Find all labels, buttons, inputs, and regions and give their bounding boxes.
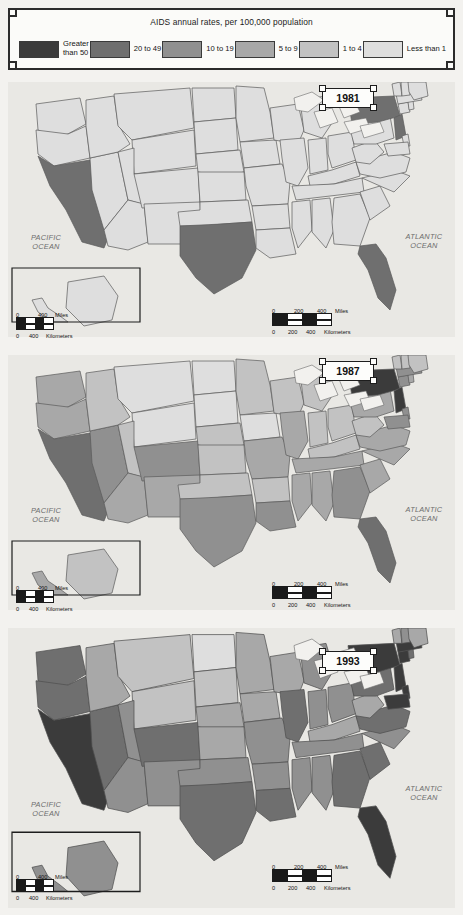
scale-tick-label: 200 [288,602,297,608]
scale-bar-small-1993: 0 400 Miles 0 400 Kilometers [16,872,88,901]
choropleth-svg-1987 [8,355,455,610]
scale-bar-large-1981: 0 200 400 Miles 0 200 400 Kilometers [272,306,382,335]
scale-tick-label: 400 [29,895,38,901]
pacific-ocean-label-1981: PACIFIC OCEAN [18,233,74,251]
state-sd [194,118,238,154]
scale-unit-label: Miles [55,585,68,591]
legend-corner-ornament [8,61,17,70]
scale-bar-small-1981: 0 400 Miles 0 400 Kilometers [16,310,88,339]
year-label: 1987 [336,365,359,377]
legend-item-10-to-19: 10 to 19 [162,41,233,58]
state-mo [244,718,290,764]
year-plaque-1981: 1981 [322,88,374,108]
state-ar [252,204,290,230]
state-mo [244,437,290,479]
plaque-corner [319,648,326,655]
scale-bar-large-1993: 0 200 400 Miles 0 200 400 Kilometers [272,862,382,891]
scale-unit-label: Kilometers [324,329,350,335]
state-vt [392,82,402,96]
plaque-corner [319,104,326,111]
plaque-corner [319,667,326,674]
state-md [384,694,410,709]
atlantic-ocean-label-1993: ATLANTIC OCEAN [395,784,453,802]
scale-bar-large-1987: 0 200 400 Miles 0 200 400 Kilometers [272,579,382,608]
scale-tick-label: 0 [272,885,275,891]
scale-tick-label: 0 [16,874,19,880]
state-ia [240,692,280,723]
scale-tick-label: 0 [16,333,19,339]
state-in [308,138,328,174]
scale-unit-label: Kilometers [46,895,72,901]
legend-swatch [235,41,275,58]
legend-corner-ornament [446,8,455,17]
state-in [308,411,328,447]
map-legend: AIDS annual rates, per 100,000 populatio… [8,8,455,70]
legend-title: AIDS annual rates, per 100,000 populatio… [10,17,453,27]
plaque-corner [370,104,377,111]
state-vt [392,628,402,643]
state-sd [194,391,238,427]
year-plaque-1993: 1993 [322,651,374,671]
scale-tick-label: 0 [16,312,19,318]
atlantic-ocean-label-1981: ATLANTIC OCEAN [395,232,453,250]
scale-tick-label: 0 [272,581,275,587]
year-label: 1981 [336,92,359,104]
state-ia [240,140,280,168]
scale-tick-label: 0 [272,329,275,335]
map-panel-1981 [8,82,455,337]
scale-tick-label: 0 [272,308,275,314]
legend-swatch [162,41,202,58]
scale-unit-label: Miles [55,312,68,318]
legend-label: 5 to 9 [279,45,298,54]
scale-tick-label: 400 [29,333,38,339]
scale-tick-label: 0 [16,895,19,901]
scale-tick-label: 400 [38,874,47,880]
legend-item-less-than-1: Less than 1 [363,41,446,58]
choropleth-svg-1993 [8,628,455,908]
plaque-corner [370,667,377,674]
plaque-corner [370,85,377,92]
scale-bar-small-1987: 0 400 Miles 0 400 Kilometers [16,583,88,612]
state-nd [192,635,236,672]
map-panel-1987 [8,355,455,610]
scale-tick-label: 200 [294,308,303,314]
legend-items: Greater than 50 20 to 49 10 to 19 5 to 9… [19,36,446,62]
legend-item-1-to-4: 1 to 4 [299,41,362,58]
year-plaque-1987: 1987 [322,361,374,381]
state-ar [252,477,290,503]
map-panel-1993 [8,628,455,908]
plaque-corner [370,377,377,384]
legend-swatch [90,41,130,58]
state-ks [198,727,246,760]
plaque-corner [370,648,377,655]
scale-unit-label: Miles [335,864,348,870]
scale-tick-label: 200 [288,329,297,335]
state-ks [198,172,246,202]
scale-tick-label: 200 [288,885,297,891]
legend-label: 1 to 4 [343,45,362,54]
plaque-corner [319,85,326,92]
legend-swatch [19,41,59,58]
state-sd [194,668,238,708]
state-ks [198,445,246,475]
scale-unit-label: Kilometers [324,602,350,608]
scale-tick-label: 200 [294,864,303,870]
state-co [134,168,200,208]
legend-item-20-to-49: 20 to 49 [90,41,161,58]
plaque-corner [370,358,377,365]
scale-tick-label: 0 [272,864,275,870]
legend-corner-ornament [8,8,17,17]
legend-label: Less than 1 [407,45,446,54]
state-mo [244,164,290,206]
atlantic-ocean-label-1987: ATLANTIC OCEAN [395,505,453,523]
scale-tick-label: 400 [306,885,315,891]
scale-unit-label: Miles [335,308,348,314]
legend-corner-ornament [446,61,455,70]
choropleth-svg-1981 [8,82,455,337]
plaque-corner [319,377,326,384]
scale-tick-label: 400 [38,312,47,318]
legend-frame: AIDS annual rates, per 100,000 populatio… [8,8,455,70]
scale-tick-label: 400 [306,329,315,335]
scale-unit-label: Miles [55,874,68,880]
plaque-corner [319,358,326,365]
